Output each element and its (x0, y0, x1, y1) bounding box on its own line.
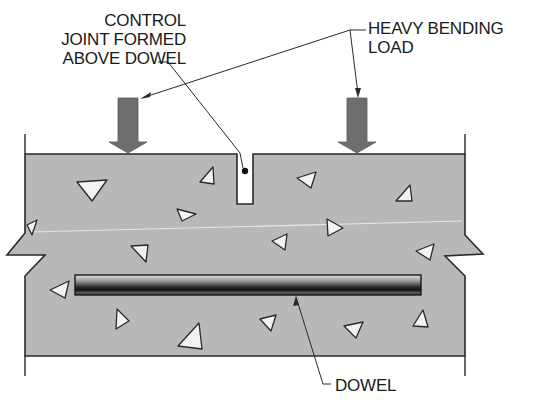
joint-marker-dot (242, 168, 248, 174)
dowel-bar (75, 275, 421, 295)
right-load-arrow (338, 98, 376, 153)
control-joint-label: CONTROL JOINT FORMED ABOVE DOWEL (6, 11, 186, 68)
control-joint-label-line-3: ABOVE DOWEL (6, 49, 186, 68)
load-leader-right (350, 30, 358, 94)
control-joint-diagram: CONTROL JOINT FORMED ABOVE DOWEL HEAVY B… (0, 0, 535, 405)
dowel-label: DOWEL (335, 376, 396, 395)
leader-arrowhead-right (355, 88, 361, 98)
dowel-label-line-1: DOWEL (335, 376, 396, 395)
leader-arrowhead-left (140, 92, 151, 99)
control-joint-label-line-2: JOINT FORMED (6, 30, 186, 49)
control-joint-label-line-1: CONTROL (6, 11, 186, 30)
load-label-line-1: HEAVY BENDING (368, 19, 504, 38)
load-label-line-2: LOAD (368, 38, 504, 57)
heavy-bending-load-label: HEAVY BENDING LOAD (368, 19, 504, 57)
left-load-arrow (109, 98, 147, 153)
control-joint-leader (158, 62, 243, 168)
